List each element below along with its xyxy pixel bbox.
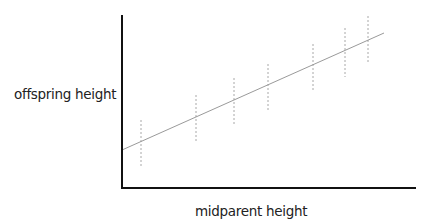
- x-axis-label: midparent height: [195, 203, 307, 219]
- y-axis-label: offspring height: [14, 86, 116, 102]
- regression-line: [122, 33, 384, 150]
- regression-diagram: [0, 0, 432, 223]
